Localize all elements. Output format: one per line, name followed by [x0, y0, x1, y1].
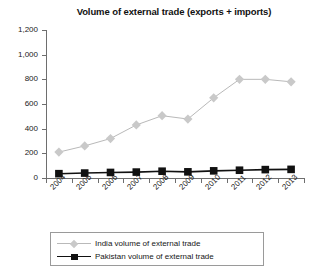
data-point-diamond [183, 114, 192, 123]
data-point-diamond [132, 120, 141, 129]
x-tick-mark [304, 179, 305, 183]
y-tick-label: 1,200 [0, 26, 38, 34]
legend-label-pakistan: Pakistan volume of external trade [91, 252, 214, 261]
x-tick-mark [98, 179, 99, 183]
y-tick-label: 800 [0, 75, 38, 83]
y-tick-label: 600 [0, 100, 38, 108]
chart-container: Volume of external trade (exports + impo… [0, 0, 313, 273]
y-tick-mark [42, 153, 46, 154]
square-marker-icon [71, 254, 78, 261]
x-tick-mark [201, 179, 202, 183]
data-point-diamond [80, 141, 89, 150]
data-point-diamond [209, 93, 218, 102]
y-tick-label: 0 [0, 174, 38, 182]
y-tick-mark [42, 129, 46, 130]
x-tick-label: 2004 [49, 173, 67, 191]
legend-item-india[interactable]: India volume of external trade [57, 237, 257, 250]
x-tick-mark [72, 179, 73, 183]
x-tick-mark [123, 179, 124, 183]
y-axis-line [46, 30, 47, 179]
x-tick-mark [46, 179, 47, 183]
y-tick-label: 200 [0, 149, 38, 157]
legend-item-pakistan[interactable]: Pakistan volume of external trade [57, 250, 257, 263]
data-point-diamond [158, 111, 167, 120]
y-tick-mark [42, 30, 46, 31]
y-tick-mark [42, 104, 46, 105]
y-tick-mark [42, 55, 46, 56]
x-tick-label: 2012 [255, 173, 273, 191]
x-tick-mark [149, 179, 150, 183]
data-point-diamond [287, 77, 296, 86]
data-point-square [262, 166, 270, 174]
diamond-marker-icon [70, 239, 78, 247]
y-tick-label: 1,000 [0, 51, 38, 59]
data-point-diamond [54, 148, 63, 157]
x-tick-mark [278, 179, 279, 183]
data-point-square [287, 166, 295, 174]
x-tick-label: 2013 [281, 173, 299, 191]
x-tick-label: 2008 [152, 173, 170, 191]
series-line-square [59, 169, 291, 173]
x-tick-label: 2006 [101, 173, 119, 191]
y-tick-label: 400 [0, 125, 38, 133]
series-line-diamond [59, 79, 291, 152]
x-tick-label: 2010 [204, 173, 222, 191]
legend-label-india: India volume of external trade [91, 239, 200, 248]
data-point-diamond [106, 134, 115, 143]
chart-legend: India volume of external trade Pakistan … [50, 232, 264, 266]
data-point-diamond [235, 75, 244, 84]
x-tick-mark [227, 179, 228, 183]
x-tick-mark [252, 179, 253, 183]
x-tick-label: 2009 [178, 173, 196, 191]
legend-key-pakistan [57, 251, 91, 262]
x-tick-label: 2011 [230, 174, 248, 192]
y-tick-mark [42, 79, 46, 80]
data-point-diamond [261, 75, 270, 84]
chart-title: Volume of external trade (exports + impo… [40, 6, 308, 18]
y-axis-labels: 02004006008001,0001,200 [0, 0, 42, 273]
x-tick-label: 2007 [126, 173, 144, 191]
x-tick-mark [175, 179, 176, 183]
x-tick-label: 2005 [75, 173, 93, 191]
legend-key-india [57, 238, 91, 249]
